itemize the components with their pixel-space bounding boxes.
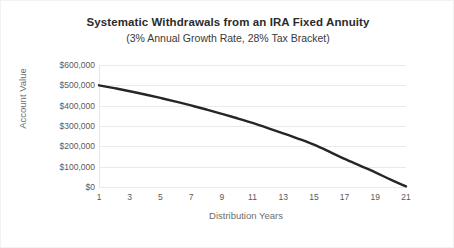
y-axis-tick: $300,000	[37, 121, 95, 131]
data-series-line	[99, 85, 406, 186]
x-axis-tick: 13	[278, 192, 287, 202]
x-axis-tick-labels: 13579111315171921	[86, 192, 406, 206]
y-axis-tick: $500,000	[37, 80, 95, 90]
x-axis-tick: 5	[158, 192, 163, 202]
x-axis-tick: 1	[97, 192, 102, 202]
x-axis-tick: 19	[371, 192, 380, 202]
x-axis-tick: 3	[127, 192, 132, 202]
chart-container: Systematic Withdrawals from an IRA Fixed…	[0, 0, 454, 248]
chart-title: Systematic Withdrawals from an IRA Fixed…	[1, 15, 454, 30]
x-axis-tick: 11	[248, 192, 257, 202]
x-axis-tick: 9	[219, 192, 224, 202]
x-axis-tick: 21	[401, 192, 410, 202]
y-axis-label: Account Value	[17, 59, 28, 139]
y-axis-tick-labels: $600,000$500,000$400,000$300,000$200,000…	[37, 59, 95, 191]
y-axis-tick: $100,000	[37, 162, 95, 172]
x-axis-tick: 17	[340, 192, 349, 202]
gridlines	[99, 66, 406, 188]
x-axis-tick: 15	[309, 192, 318, 202]
y-axis-tick: $200,000	[37, 141, 95, 151]
y-axis-tick: $400,000	[37, 101, 95, 111]
y-axis-tick: $0	[37, 182, 95, 192]
y-axis-tick: $600,000	[37, 60, 95, 70]
chart-title-block: Systematic Withdrawals from an IRA Fixed…	[1, 15, 454, 46]
chart-plot	[99, 65, 406, 187]
x-axis-label: Distribution Years	[86, 210, 406, 221]
plot-area	[99, 65, 406, 187]
x-axis-tick: 7	[189, 192, 194, 202]
chart-subtitle: (3% Annual Growth Rate, 28% Tax Bracket)	[1, 31, 454, 46]
